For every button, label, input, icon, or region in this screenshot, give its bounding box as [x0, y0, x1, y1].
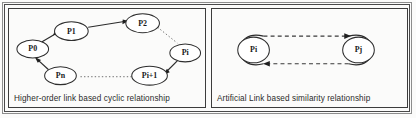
node-p2[interactable]: P2 — [126, 14, 160, 33]
node-pi-plus-1[interactable]: Pi+1 — [132, 66, 168, 85]
node-pi-label: Pi — [250, 45, 258, 54]
cyclic-diagram-canvas: P0 P1 P2 Pi Pi+1 Pn — [9, 9, 205, 87]
node-pn[interactable]: Pn — [45, 67, 77, 85]
panel-similarity-caption: Artificial Link based similarity relatio… — [217, 94, 370, 103]
node-pi-label: Pi — [182, 48, 190, 57]
similarity-diagram-canvas: Pi Pj — [212, 9, 407, 87]
edge-pj-to-pi-dashed — [263, 61, 349, 67]
node-pi[interactable]: Pi — [238, 35, 270, 65]
node-pi[interactable]: Pi — [170, 44, 201, 62]
edge-pi-to-pj-dashed — [263, 33, 351, 39]
panel-cyclic-caption: Higher-order link based cyclic relations… — [14, 94, 170, 103]
figure-container: P0 P1 P2 Pi Pi+1 Pn Higher-o — [0, 0, 416, 118]
node-pi-plus-1-label: Pi+1 — [142, 71, 158, 80]
edge-pn-to-p0 — [35, 57, 49, 69]
node-p1[interactable]: P1 — [55, 22, 89, 41]
panel-similarity-relationship: Pi Pj Artificial Link based similarity r… — [211, 8, 408, 108]
node-pj[interactable]: Pj — [343, 35, 375, 65]
node-pn-label: Pn — [56, 71, 66, 80]
edge-p1-to-p2 — [88, 19, 129, 27]
panel-cyclic-relationship: P0 P1 P2 Pi Pi+1 Pn Higher-o — [8, 8, 206, 108]
node-p0-label: P0 — [28, 44, 37, 53]
edge-p2-to-pi-dotted — [157, 27, 177, 43]
node-p0[interactable]: P0 — [17, 40, 49, 58]
node-p2-label: P2 — [138, 19, 147, 28]
node-pj-label: Pj — [355, 45, 363, 54]
node-p1-label: P1 — [67, 27, 76, 36]
